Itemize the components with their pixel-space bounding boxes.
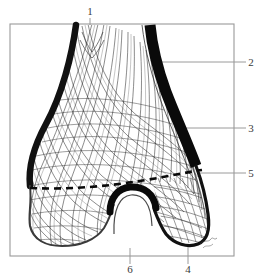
femur-illustration: 1 2 3 5 4 6 <box>0 0 266 276</box>
label-2: 2 <box>248 56 254 68</box>
label-5: 5 <box>248 167 254 179</box>
label-6: 6 <box>127 263 133 275</box>
anatomical-plate: 1 2 3 5 4 6 <box>0 0 266 276</box>
label-4: 4 <box>185 263 191 275</box>
label-3: 3 <box>248 122 254 134</box>
label-1: 1 <box>87 5 93 17</box>
